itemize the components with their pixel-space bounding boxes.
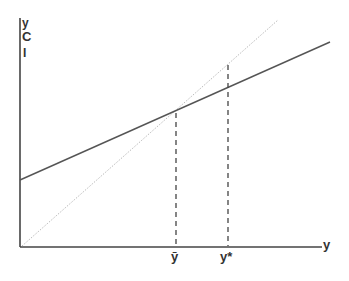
y-axis-label-i: I: [23, 47, 26, 59]
x-axis-label: y: [323, 238, 330, 251]
tick-label-y-star: y*: [220, 250, 232, 263]
aggregate-demand-line: [20, 42, 330, 180]
forty-five-degree-line: [22, 20, 278, 246]
y-axis-label-c: C: [22, 30, 31, 43]
tick-label-y-bar: ȳ: [171, 250, 178, 263]
y-axis-label-y: y: [22, 17, 29, 29]
keynesian-cross-diagram: [0, 0, 349, 281]
